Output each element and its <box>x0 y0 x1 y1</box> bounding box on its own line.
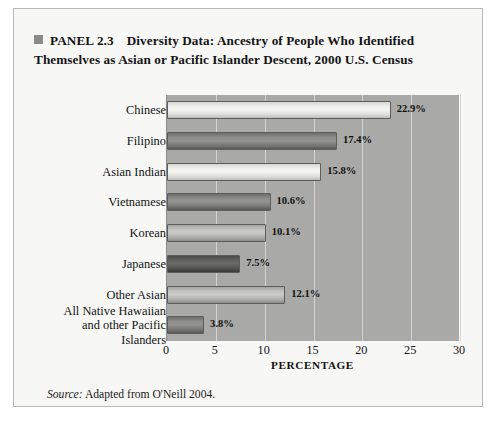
category-label: Chinese <box>31 103 166 118</box>
bar <box>167 255 240 273</box>
category-label-line: Japanese <box>31 257 166 272</box>
bar-row: 12.1% <box>167 280 459 311</box>
bar <box>167 224 266 242</box>
bar-row: 10.6% <box>167 187 459 218</box>
gridline <box>460 95 461 341</box>
x-tick-label: 25 <box>404 343 416 358</box>
category-label: All Native Hawaiianand other PacificIsla… <box>31 304 166 348</box>
bar <box>167 316 204 334</box>
source-label: Source: <box>47 388 83 401</box>
bar <box>167 163 321 181</box>
bar-row: 7.5% <box>167 249 459 280</box>
category-label: Filipino <box>31 134 166 149</box>
x-tick-label: 20 <box>355 343 367 358</box>
x-axis-ticks: 051015202530 <box>166 341 459 361</box>
bar-row: 22.9% <box>167 95 459 126</box>
x-tick-label: 30 <box>453 343 465 358</box>
category-label: Other Asian <box>31 288 166 303</box>
category-label: Korean <box>31 226 166 241</box>
bar-value-label: 17.4% <box>343 134 372 145</box>
category-axis-labels: ChineseFilipinoAsian IndianVietnameseKor… <box>31 95 166 341</box>
x-tick-label: 10 <box>258 343 270 358</box>
category-label-line: Vietnamese <box>31 195 166 210</box>
category-label-line: Korean <box>31 226 166 241</box>
panel-title-text-1: Diversity Data: Ancestry of People Who I… <box>127 33 414 48</box>
panel-figure: PANEL 2.3Diversity Data: Ancestry of Peo… <box>0 0 497 434</box>
bar-row: 3.8% <box>167 310 459 341</box>
category-label: Japanese <box>31 257 166 272</box>
panel-title-line-1: PANEL 2.3Diversity Data: Ancestry of Peo… <box>34 31 466 50</box>
bar <box>167 101 391 119</box>
panel-title-line-2: Themselves as Asian or Pacific Islander … <box>34 50 466 69</box>
plot-area: 22.9%17.4%15.8%10.6%10.1%7.5%12.1%3.8% <box>166 95 459 341</box>
bar-value-label: 12.1% <box>291 288 320 299</box>
bar-value-label: 10.6% <box>277 195 306 206</box>
bar <box>167 193 271 211</box>
category-label-line: Asian Indian <box>31 165 166 180</box>
category-label-line: Filipino <box>31 134 166 149</box>
bar-value-label: 22.9% <box>397 103 426 114</box>
bar-row: 15.8% <box>167 157 459 188</box>
bar-row: 10.1% <box>167 218 459 249</box>
x-tick-label: 0 <box>163 343 169 358</box>
bar-value-label: 7.5% <box>246 257 270 268</box>
bar-value-label: 15.8% <box>327 165 356 176</box>
category-label: Vietnamese <box>31 195 166 210</box>
bar <box>167 286 285 304</box>
bar <box>167 132 337 150</box>
bar-value-label: 10.1% <box>272 226 301 237</box>
x-tick-label: 5 <box>212 343 218 358</box>
x-tick-label: 15 <box>306 343 318 358</box>
category-label-line: All Native Hawaiian <box>31 304 166 319</box>
panel-tag: PANEL 2.3 <box>50 33 114 48</box>
source-text: Adapted from O'Neill 2004. <box>83 388 216 401</box>
panel-frame: PANEL 2.3Diversity Data: Ancestry of Peo… <box>13 8 483 407</box>
panel-title-block: PANEL 2.3Diversity Data: Ancestry of Peo… <box>34 31 466 69</box>
bar-chart: ChineseFilipinoAsian IndianVietnameseKor… <box>31 87 493 372</box>
source-note: Source: Adapted from O'Neill 2004. <box>47 388 215 401</box>
x-axis-title: PERCENTAGE <box>166 359 459 371</box>
category-label-line: Other Asian <box>31 288 166 303</box>
bar-value-label: 3.8% <box>210 318 234 329</box>
bar-row: 17.4% <box>167 126 459 157</box>
category-label-line: Chinese <box>31 103 166 118</box>
panel-square-icon <box>34 35 43 44</box>
category-label-line: Islanders <box>31 333 166 348</box>
category-label: Asian Indian <box>31 165 166 180</box>
category-label-line: and other Pacific <box>31 318 166 333</box>
